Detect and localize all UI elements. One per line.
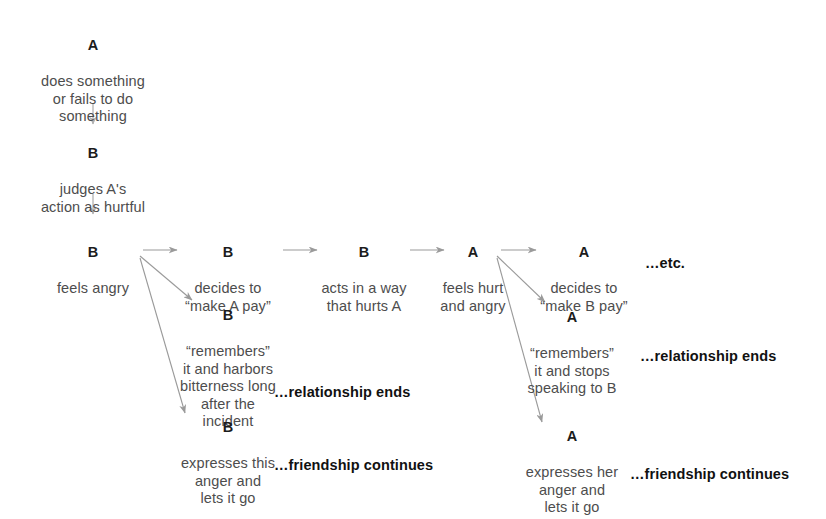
node-b-judges: B judges A's action as hurtful	[18, 126, 168, 234]
node-actor-label: A	[428, 243, 518, 262]
node-actor-label: B	[18, 144, 168, 163]
node-actor-label: A	[512, 427, 632, 446]
node-b-acts-hurts-a: B acts in a way that hurts A	[303, 225, 425, 333]
outcome-a-relationship-ends: …relationship ends	[640, 348, 776, 366]
node-body-text: “remembers” it and stops speaking to B	[512, 345, 632, 398]
node-a-feels-hurt: A feels hurt and angry	[428, 225, 518, 333]
node-body-text: expresses her anger and lets it go	[512, 464, 632, 517]
node-a-does-something: A does something or fails to do somethin…	[18, 18, 168, 143]
node-actor-label: B	[168, 243, 288, 262]
outcome-a-friendship-continues: …friendship continues	[630, 466, 789, 484]
node-body-text: expresses this anger and lets it go	[168, 455, 288, 508]
node-actor-label: B	[168, 306, 288, 325]
node-a-expresses: A expresses her anger and lets it go	[512, 409, 632, 519]
node-a-remembers: A “remembers” it and stops speaking to B	[512, 290, 632, 415]
node-actor-label: B	[303, 243, 425, 262]
node-b-expresses: B expresses this anger and lets it go	[168, 400, 288, 519]
node-actor-label: A	[512, 308, 632, 327]
node-body-text: feels angry	[18, 280, 168, 298]
node-body-text: does something or fails to do something	[18, 73, 168, 126]
node-actor-label: A	[18, 36, 168, 55]
node-actor-label: A	[525, 243, 643, 262]
node-actor-label: B	[168, 418, 288, 437]
node-body-text: acts in a way that hurts A	[303, 280, 425, 315]
outcome-b-friendship-continues: …friendship continues	[274, 457, 433, 475]
node-b-feels-angry: B feels angry	[18, 225, 168, 315]
node-actor-label: B	[18, 243, 168, 262]
outcome-b-relationship-ends: …relationship ends	[274, 384, 410, 402]
node-body-text: feels hurt and angry	[428, 280, 518, 315]
node-body-text: judges A's action as hurtful	[18, 181, 168, 216]
outcome-etc: …etc.	[645, 255, 685, 273]
